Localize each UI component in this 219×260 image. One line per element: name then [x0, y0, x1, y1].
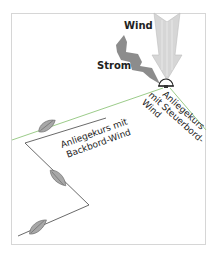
- sailing-diagram: Wind Strom Anliegekurs mit Backbord-Wind…: [0, 0, 219, 260]
- port-tack-label: Anliegekurs mit Backbord-Wind: [59, 116, 133, 160]
- wind-arrow-icon: [152, 13, 182, 80]
- boat-icon-2: [48, 167, 69, 188]
- mark-buoy-icon: [158, 79, 174, 88]
- starboard-tack-label: Anliegekurs mit Steuerbord- Wind: [140, 82, 213, 152]
- wind-label: Wind: [124, 20, 153, 31]
- current-label: Strom: [97, 60, 131, 71]
- boat-icon-3: [27, 216, 49, 236]
